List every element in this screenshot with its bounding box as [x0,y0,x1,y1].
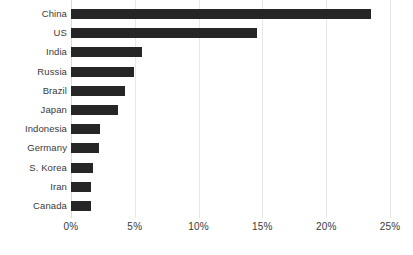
category-label-iran: Iran [0,182,67,192]
value-axis: 0%5%10%15%20%25% [71,221,390,237]
bar-s-korea [71,163,93,173]
category-label-canada: Canada [0,201,67,211]
gridline-15 [262,0,263,218]
tick-label-0: 0% [64,221,79,232]
plot-area [71,0,390,218]
gridline-20 [326,0,327,218]
tick-label-15: 15% [252,221,273,232]
bar-japan [71,105,118,115]
gridline-25 [390,0,391,218]
category-label-india: India [0,47,67,57]
category-label-japan: Japan [0,105,67,115]
bar-canada [71,201,91,211]
category-label-brazil: Brazil [0,86,67,96]
bar-brazil [71,86,125,96]
bar-indonesia [71,124,100,134]
bar-russia [71,67,134,77]
tick-label-20: 20% [316,221,337,232]
bar-iran [71,182,91,192]
category-label-china: China [0,9,67,19]
category-label-germany: Germany [0,143,67,153]
category-label-russia: Russia [0,67,67,77]
bar-us [71,28,257,38]
bar-chart: ChinaUSIndiaRussiaBrazilJapanIndonesiaGe… [0,0,413,255]
category-label-s-korea: S. Korea [0,163,67,173]
bar-india [71,47,142,57]
bar-germany [71,143,99,153]
category-axis: ChinaUSIndiaRussiaBrazilJapanIndonesiaGe… [0,0,67,218]
tick-label-5: 5% [127,221,142,232]
tick-label-25: 25% [380,221,401,232]
tick-label-10: 10% [188,221,209,232]
category-label-indonesia: Indonesia [0,124,67,134]
category-label-us: US [0,28,67,38]
bar-china [71,9,371,19]
